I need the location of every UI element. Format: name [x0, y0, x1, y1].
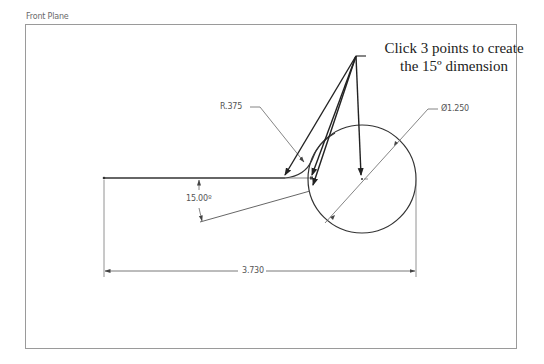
circle-center	[361, 178, 363, 180]
callout-line-1: Click 3 points to create	[364, 39, 544, 57]
drawing-canvas[interactable]: Front Plane	[0, 0, 544, 364]
instruction-callout: Click 3 points to create the 15º dimensi…	[364, 39, 544, 75]
endpoint-left	[103, 177, 106, 180]
length-dimension[interactable]: 3.730	[240, 266, 266, 276]
diameter-leader	[325, 109, 428, 223]
callout-line-2: the 15º dimension	[364, 57, 544, 75]
callout-arrow-line	[313, 56, 356, 185]
angle-dimension[interactable]: 15.00º	[186, 194, 211, 204]
diameter-dimension[interactable]: Ø1.250	[441, 104, 469, 114]
callout-arrow-center	[356, 56, 361, 175]
callout-arrows	[285, 56, 361, 185]
callout-arrow-fillet	[285, 56, 356, 175]
radius-dimension[interactable]: R.375	[220, 102, 242, 112]
angled-line	[200, 191, 310, 222]
